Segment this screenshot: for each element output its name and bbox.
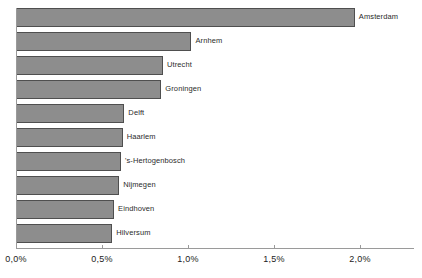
x-axis-line [16,248,414,249]
bar-label: 's-Hertogenbosch [125,154,185,168]
bar-label: Arnhem [195,34,222,48]
x-axis-tick-label: 0,0% [5,254,26,264]
bar [16,56,163,75]
bar-chart: AmsterdamArnhemUtrechtGroningenDelftHaar… [0,0,422,278]
bar-label: Utrecht [167,58,192,72]
bar [16,152,121,171]
bar [16,128,123,147]
bar-label: Groningen [165,82,201,96]
y-axis-line [16,8,17,249]
x-axis-tick [102,245,103,249]
bar-label: Eindhoven [118,202,154,216]
bar [16,224,112,243]
x-axis-tick [274,245,275,249]
bar-label: Haarlem [127,130,156,144]
bar [16,104,124,123]
bar [16,200,114,219]
bar-label: Delft [128,106,144,120]
bar-label: Nijmegen [123,178,155,192]
x-axis-tick-label: 1,5% [263,254,284,264]
x-axis-tick [360,245,361,249]
bar [16,32,191,51]
bar [16,176,119,195]
bar-label: Amsterdam [359,10,398,24]
bar [16,8,355,27]
bar [16,80,161,99]
plot-area: AmsterdamArnhemUtrechtGroningenDelftHaar… [0,0,422,250]
x-axis-tick-label: 0,5% [91,254,112,264]
bar-label: Hilversum [116,226,150,240]
x-axis-tick-label: 2,0% [349,254,370,264]
x-axis-tick [188,245,189,249]
x-axis-tick-label: 1,0% [177,254,198,264]
